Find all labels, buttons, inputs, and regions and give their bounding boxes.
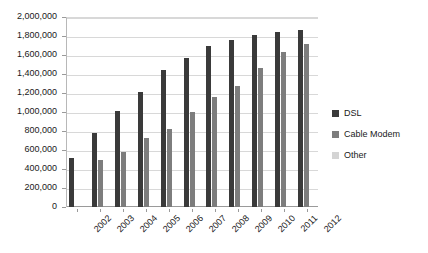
x-tick-mark bbox=[169, 209, 170, 212]
x-tick-mark bbox=[307, 209, 308, 212]
legend-label: Cable Modem bbox=[344, 130, 400, 139]
bar bbox=[144, 138, 149, 207]
x-tick-mark bbox=[261, 209, 262, 212]
bar-group bbox=[275, 17, 292, 207]
x-tick-label: 2010 bbox=[276, 213, 297, 234]
legend-swatch-icon bbox=[332, 110, 339, 117]
y-tick-label: 400,000 bbox=[24, 164, 57, 173]
legend: DSLCable ModemOther bbox=[332, 103, 426, 166]
x-tick-mark bbox=[215, 209, 216, 212]
y-tick-label: 200,000 bbox=[24, 183, 57, 192]
bar bbox=[190, 112, 195, 207]
x-axis: 2002200320042005200620072008200920102011… bbox=[66, 209, 318, 253]
bar bbox=[115, 111, 120, 207]
bar bbox=[281, 52, 286, 207]
bar bbox=[121, 152, 126, 207]
bar-group bbox=[184, 17, 201, 207]
y-tick-mark bbox=[62, 207, 66, 208]
y-tick-label: 0 bbox=[52, 202, 57, 211]
bar bbox=[212, 97, 217, 207]
legend-label: DSL bbox=[344, 109, 362, 118]
bar bbox=[258, 68, 263, 207]
bar bbox=[138, 92, 143, 207]
bar bbox=[298, 30, 303, 207]
bar bbox=[184, 58, 189, 207]
y-tick-label: 800,000 bbox=[24, 126, 57, 135]
bar-group bbox=[229, 17, 246, 207]
x-tick-label: 2012 bbox=[321, 213, 342, 234]
bar bbox=[252, 35, 257, 207]
y-tick-label: 1,200,000 bbox=[17, 88, 57, 97]
x-tick-mark bbox=[192, 209, 193, 212]
y-tick-label: 2,000,000 bbox=[17, 12, 57, 21]
y-tick-label: 1,400,000 bbox=[17, 69, 57, 78]
x-tick-mark bbox=[146, 209, 147, 212]
bar bbox=[304, 44, 309, 207]
x-tick-mark bbox=[284, 209, 285, 212]
x-tick-mark bbox=[77, 209, 78, 212]
x-tick-label: 2002 bbox=[92, 213, 113, 234]
bar bbox=[229, 40, 234, 207]
bar bbox=[167, 129, 172, 207]
x-tick-label: 2009 bbox=[253, 213, 274, 234]
legend-swatch-icon bbox=[332, 131, 339, 138]
x-tick-mark bbox=[100, 209, 101, 212]
bar-groups bbox=[66, 17, 318, 207]
x-tick-label: 2005 bbox=[161, 213, 182, 234]
bar bbox=[161, 70, 166, 207]
x-tick-label: 2007 bbox=[207, 213, 228, 234]
y-tick-label: 1,800,000 bbox=[17, 31, 57, 40]
bar-chart: 0200,000400,000600,000800,0001,000,0001,… bbox=[0, 0, 428, 253]
x-tick-label: 2008 bbox=[230, 213, 251, 234]
legend-item[interactable]: DSL bbox=[332, 103, 426, 124]
x-tick-label: 2003 bbox=[115, 213, 136, 234]
x-tick-label: 2006 bbox=[184, 213, 205, 234]
bar bbox=[206, 46, 211, 207]
bar bbox=[92, 133, 97, 207]
x-tick-label: 2011 bbox=[298, 213, 319, 234]
legend-item[interactable]: Other bbox=[332, 145, 426, 166]
y-tick-label: 1,000,000 bbox=[17, 107, 57, 116]
bar-group bbox=[69, 17, 86, 207]
bar-group bbox=[115, 17, 132, 207]
x-tick-label: 2004 bbox=[138, 213, 159, 234]
bar bbox=[98, 160, 103, 207]
y-tick-label: 1,600,000 bbox=[17, 50, 57, 59]
legend-swatch-icon bbox=[332, 152, 339, 159]
y-axis: 0200,000400,000600,000800,0001,000,0001,… bbox=[0, 0, 62, 253]
x-tick-mark bbox=[123, 209, 124, 212]
bar-group bbox=[298, 17, 315, 207]
bar-group bbox=[161, 17, 178, 207]
bar bbox=[235, 86, 240, 207]
y-tick-label: 600,000 bbox=[24, 145, 57, 154]
bar-group bbox=[138, 17, 155, 207]
bar bbox=[275, 32, 280, 207]
bar bbox=[69, 158, 74, 207]
bar-group bbox=[92, 17, 109, 207]
legend-item[interactable]: Cable Modem bbox=[332, 124, 426, 145]
bar-group bbox=[252, 17, 269, 207]
bar-group bbox=[206, 17, 223, 207]
x-tick-mark bbox=[238, 209, 239, 212]
legend-label: Other bbox=[344, 151, 367, 160]
